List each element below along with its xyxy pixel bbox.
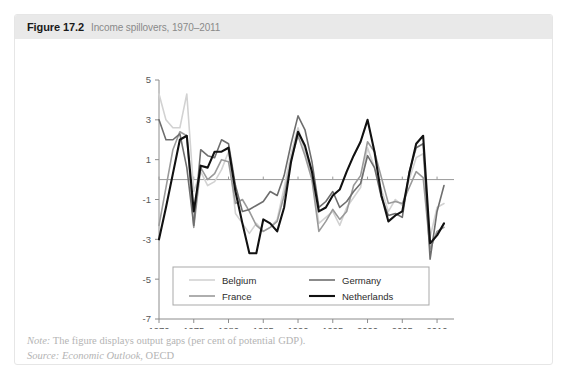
- legend-label-germany: Germany: [342, 275, 381, 286]
- y-axis-tick-label: -5: [143, 274, 151, 285]
- x-axis-tick-label: 1975: [183, 325, 204, 330]
- y-axis-tick-label: 1: [146, 154, 151, 165]
- legend-label-france: France: [222, 291, 252, 302]
- note-line: Note: The figure displays output gaps (p…: [27, 333, 527, 348]
- source-line: Source: Economic Outlook, OECD: [27, 348, 527, 363]
- footnotes: Note: The figure displays output gaps (p…: [27, 333, 527, 363]
- source-organisation: , OECD: [140, 350, 174, 361]
- legend-label-netherlands: Netherlands: [342, 291, 393, 302]
- x-axis-tick-label: 2000: [357, 325, 378, 330]
- figure-panel: Figure 17.2 Income spillovers, 1970–2011…: [14, 14, 553, 365]
- series-line-france: [159, 132, 444, 250]
- x-axis-tick-label: 2005: [392, 325, 413, 330]
- line-chart: 531-1-3-5-719701975198019851990199520002…: [15, 39, 553, 329]
- source-label: Source:: [27, 350, 59, 361]
- y-axis-tick-label: 5: [146, 74, 151, 85]
- figure-caption: Income spillovers, 1970–2011: [91, 22, 220, 33]
- series-line-netherlands: [159, 120, 444, 253]
- x-axis-tick-label: 1995: [322, 325, 343, 330]
- figure-title: Figure 17.2 Income spillovers, 1970–2011: [27, 15, 220, 39]
- x-axis-tick-label: 1970: [148, 325, 169, 330]
- note-label: Note:: [27, 335, 50, 346]
- chart-area: 531-1-3-5-719701975198019851990199520002…: [15, 39, 553, 329]
- y-axis-tick-label: -7: [143, 313, 151, 324]
- figure-number: Figure 17.2: [27, 21, 84, 33]
- y-axis-tick-label: 3: [146, 114, 151, 125]
- figure-header-band: Figure 17.2 Income spillovers, 1970–2011: [15, 15, 552, 39]
- source-publication: Economic Outlook: [59, 350, 140, 361]
- y-axis-tick-label: -1: [143, 194, 151, 205]
- y-axis-tick-label: -3: [143, 234, 151, 245]
- x-axis-tick-label: 1990: [287, 325, 308, 330]
- x-axis-tick-label: 1985: [253, 325, 274, 330]
- legend-label-belgium: Belgium: [222, 275, 256, 286]
- x-axis-tick-label: 1980: [218, 325, 239, 330]
- note-text: The figure displays output gaps (per cen…: [50, 335, 305, 346]
- x-axis-tick-label: 2010: [426, 325, 447, 330]
